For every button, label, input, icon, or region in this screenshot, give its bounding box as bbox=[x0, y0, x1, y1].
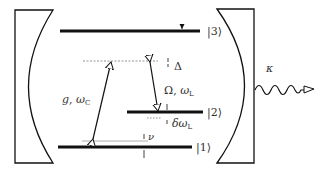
laser-coupling-label: Ω, ωL bbox=[164, 84, 194, 98]
nu-indicator: ν bbox=[144, 131, 154, 158]
nu-label: ν bbox=[148, 131, 154, 142]
cavity-coupling-label: g, ωC bbox=[62, 93, 90, 107]
level-1-label: |1⟩ bbox=[196, 141, 211, 155]
delta-omega-indicator: δωL bbox=[167, 104, 193, 131]
right-mirror bbox=[217, 9, 254, 163]
cavity-level-diagram: |3⟩ Δ |2⟩ δωL |1⟩ ν g, ωC Ω, ωL κ bbox=[0, 0, 331, 175]
cavity-transition-arrow bbox=[93, 62, 111, 139]
delta-label: Δ bbox=[174, 60, 182, 73]
delta-omega-label: δω bbox=[172, 117, 188, 130]
svg-text:δωL: δωL bbox=[172, 117, 193, 131]
delta-omega-sub: L bbox=[188, 123, 193, 131]
kappa-label: κ bbox=[265, 62, 274, 75]
level-2-label: |2⟩ bbox=[207, 106, 222, 120]
left-mirror bbox=[15, 10, 53, 163]
level-3-label: |3⟩ bbox=[207, 25, 222, 39]
delta-indicator: Δ bbox=[168, 58, 182, 73]
laser-transition-arrow bbox=[150, 62, 158, 111]
cavity-decay-wave bbox=[255, 86, 314, 95]
